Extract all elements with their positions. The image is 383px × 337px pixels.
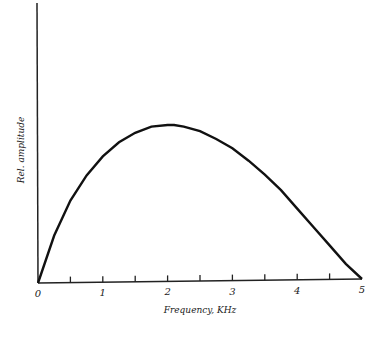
chart: 012345 Frequency, KHz Rel. amplitude xyxy=(0,0,383,337)
x-tick-label: 4 xyxy=(293,285,300,296)
x-tick-label: 2 xyxy=(163,286,170,297)
x-tick-label: 5 xyxy=(359,284,365,295)
x-axis-title: Frequency, KHz xyxy=(163,305,237,315)
y-axis-title: Rel. amplitude xyxy=(16,117,26,185)
x-tick-label: 0 xyxy=(35,288,42,299)
x-tick-label: 3 xyxy=(229,286,235,297)
y-axis xyxy=(37,3,38,283)
x-tick-labels: 012345 xyxy=(35,284,365,299)
amplitude-curve xyxy=(38,125,362,283)
x-tick-label: 1 xyxy=(100,287,106,298)
